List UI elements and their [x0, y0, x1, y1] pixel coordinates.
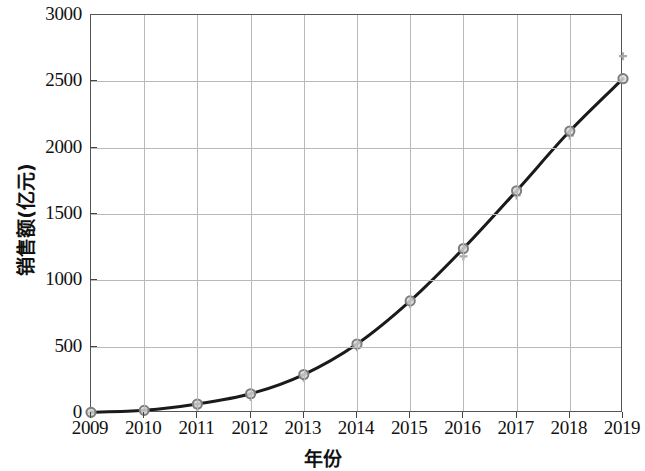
y-tick-mark — [90, 346, 97, 347]
x-tick-mark — [356, 412, 357, 418]
x-tick-mark — [143, 412, 144, 418]
x-tick-mark — [622, 412, 623, 418]
chart-figure: 050010001500200025003000 200920102011201… — [0, 0, 645, 471]
y-tick-mark — [90, 213, 97, 214]
x-tick-mark — [196, 412, 197, 418]
x-axis-title: 年份 — [0, 444, 645, 471]
y-tick-mark — [90, 80, 97, 81]
y-tick-mark — [90, 147, 97, 148]
x-tick-mark — [303, 412, 304, 418]
y-axis-title: 销售额(亿元) — [11, 100, 38, 340]
x-tick-mark — [516, 412, 517, 418]
x-tick-mark — [462, 412, 463, 418]
x-tick-mark — [90, 412, 91, 418]
x-tick-mark — [250, 412, 251, 418]
x-tick-mark — [409, 412, 410, 418]
y-tick-mark — [90, 279, 97, 280]
y-tick-label: 3000 — [0, 4, 82, 23]
x-tick-mark — [569, 412, 570, 418]
x-tick-label: 2019 — [586, 418, 645, 437]
y-tick-label: 2500 — [0, 70, 82, 89]
